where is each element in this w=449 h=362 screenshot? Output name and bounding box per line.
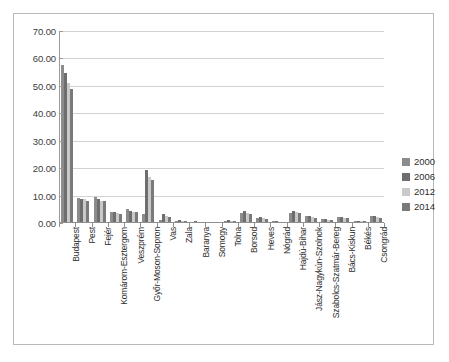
x-axis-label: Békés [363, 227, 373, 250]
y-tick-mark [59, 31, 63, 32]
y-tick-label: 30.00 [33, 135, 56, 146]
legend-swatch-icon [402, 188, 410, 196]
y-tick-mark [59, 113, 63, 114]
bar [103, 201, 106, 223]
x-axis-label: Zala [184, 227, 194, 243]
bar-group [254, 31, 270, 223]
x-axis-label: Baranya [201, 227, 211, 258]
legend-label: 2014 [414, 202, 435, 212]
chart-legend: 2000200620122014 [402, 155, 449, 215]
x-axis-label: Komárom-Esztergom [119, 227, 129, 305]
plot-area [59, 31, 384, 223]
bar-group [59, 31, 75, 223]
y-tick-label: 70.00 [33, 26, 56, 37]
bar-group [157, 31, 173, 223]
legend-item[interactable]: 2000 [402, 155, 449, 169]
y-tick-mark [59, 58, 63, 59]
x-axis-label: Pest [87, 227, 97, 243]
x-axis-label: Veszprém [136, 227, 146, 264]
y-tick-label: 50.00 [33, 80, 56, 91]
x-axis-label: Fejér [103, 227, 113, 246]
bar [151, 180, 154, 223]
legend-item[interactable]: 2012 [402, 185, 449, 199]
x-axis-label: Bács-Kiskun [347, 227, 357, 273]
bar-group [189, 31, 205, 223]
x-axis-label: Budapest [71, 227, 81, 262]
bar-group [335, 31, 351, 223]
bar-group [92, 31, 108, 223]
bar-group [173, 31, 189, 223]
x-axis-label: Jász-Nagykún-Szolnok [314, 227, 324, 311]
legend-label: 2006 [414, 172, 435, 182]
bar [86, 201, 89, 223]
legend-swatch-icon [402, 203, 410, 211]
x-axis-label: Heves [266, 227, 276, 250]
bar-group [108, 31, 124, 223]
y-tick-mark [59, 141, 63, 142]
x-axis-label: Borsod [249, 227, 259, 253]
chart-frame: 0.0010.0020.0030.0040.0050.0060.0070.00 … [13, 13, 434, 345]
y-tick-mark [59, 86, 63, 87]
bar-group [75, 31, 91, 223]
bar-group [140, 31, 156, 223]
x-axis-label: Somogy [217, 227, 227, 257]
y-axis-labels: 0.0010.0020.0030.0040.0050.0060.0070.00 [14, 31, 56, 223]
bar-group [352, 31, 368, 223]
legend-label: 2012 [414, 187, 435, 197]
x-axis-label: Tolna [233, 227, 243, 247]
x-axis-label: Csongrád [379, 227, 389, 263]
legend-label: 2000 [414, 157, 435, 167]
x-axis-label: Vas [168, 227, 178, 241]
y-tick-label: 60.00 [33, 53, 56, 64]
bar-group [319, 31, 335, 223]
bar-group [287, 31, 303, 223]
x-axis-label: Szabolcs-Szatmár-Bereg [331, 227, 341, 318]
y-tick-label: 20.00 [33, 163, 56, 174]
x-axis-label: Győr-Moson-Sopron [152, 227, 162, 301]
bar-group [124, 31, 140, 223]
bar-group [205, 31, 221, 223]
bar [70, 89, 73, 223]
y-tick-mark [59, 168, 63, 169]
bar-group [303, 31, 319, 223]
x-axis-label: Hajdú-Bihar [298, 227, 308, 270]
bars-layer [59, 31, 384, 223]
bar-group [238, 31, 254, 223]
y-tick-mark [59, 196, 63, 197]
bar-group [368, 31, 384, 223]
y-tick-label: 10.00 [33, 190, 56, 201]
legend-item[interactable]: 2006 [402, 170, 449, 184]
legend-item[interactable]: 2014 [402, 200, 449, 214]
legend-swatch-icon [402, 158, 410, 166]
y-tick-label: 0.00 [38, 218, 56, 229]
y-tick-label: 40.00 [33, 108, 56, 119]
legend-swatch-icon [402, 173, 410, 181]
x-axis-labels: BudapestPestFejérKomárom-EsztergomVeszpr… [59, 223, 384, 341]
x-axis-label: Nógrád [282, 227, 292, 254]
bar-group [222, 31, 238, 223]
bar-group [270, 31, 286, 223]
